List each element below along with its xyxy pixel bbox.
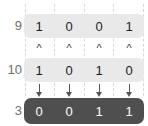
bitwise-xor-diagram: 9 1 0 0 1 ^ ^ ^ ^ 10 1 0 1 0 <box>0 0 148 126</box>
bit-cell: 1 <box>84 105 114 118</box>
bit-cell: 1 <box>24 64 54 77</box>
result-arrow-row <box>24 84 144 98</box>
xor-caret-icon: ^ <box>114 40 144 56</box>
arrow-head <box>36 92 42 97</box>
down-arrow-icon <box>84 84 114 98</box>
arrow-head <box>66 92 72 97</box>
operand-row-first-bits: 1 0 0 1 <box>24 14 144 38</box>
bit-cell: 0 <box>54 64 84 77</box>
operand-row-first-label: 9 <box>0 19 22 32</box>
xor-operator-row: ^ ^ ^ ^ <box>24 40 144 56</box>
down-arrow-icon <box>54 84 84 98</box>
bit-cell: 0 <box>84 20 114 33</box>
bit-cell: 1 <box>114 105 144 118</box>
operand-row-first: 9 1 0 0 1 <box>0 14 148 38</box>
arrow-head <box>96 92 102 97</box>
bit-cell: 1 <box>24 20 54 33</box>
xor-caret-icon: ^ <box>24 40 54 56</box>
operand-row-second: 10 1 0 1 0 <box>0 58 148 82</box>
result-row-bits: 0 0 1 1 <box>24 98 144 124</box>
bit-cell: 1 <box>84 64 114 77</box>
down-arrow-icon <box>24 84 54 98</box>
arrow-head <box>126 92 132 97</box>
bit-cell: 0 <box>24 105 54 118</box>
operand-row-second-bits: 1 0 1 0 <box>24 58 144 82</box>
bit-cell: 1 <box>114 20 144 33</box>
xor-caret-icon: ^ <box>54 40 84 56</box>
bit-cell: 0 <box>114 64 144 77</box>
result-row-label: 3 <box>0 104 22 117</box>
down-arrow-icon <box>114 84 144 98</box>
bit-cell: 0 <box>54 20 84 33</box>
result-row: 3 0 0 1 1 <box>0 98 148 124</box>
xor-caret-icon: ^ <box>84 40 114 56</box>
operand-row-second-label: 10 <box>0 63 22 76</box>
bit-cell: 0 <box>54 105 84 118</box>
